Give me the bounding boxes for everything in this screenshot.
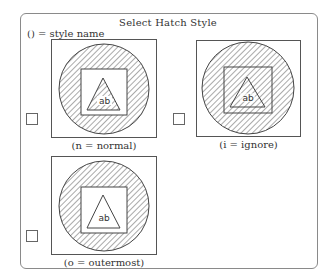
checkbox-outermost[interactable] — [26, 230, 38, 242]
style-name-legend: () = style name — [27, 28, 104, 39]
style-option-ignore[interactable] — [196, 40, 301, 137]
caption-outermost: (o = outermost) — [51, 257, 157, 268]
style-option-normal[interactable] — [51, 39, 157, 138]
caption-normal: (n = normal) — [51, 140, 157, 151]
checkbox-normal[interactable] — [26, 113, 38, 125]
dialog-title: Select Hatch Style — [0, 17, 336, 28]
style-option-outermost[interactable] — [51, 156, 157, 255]
caption-ignore: (i = ignore) — [196, 139, 301, 150]
checkbox-ignore[interactable] — [173, 113, 185, 125]
